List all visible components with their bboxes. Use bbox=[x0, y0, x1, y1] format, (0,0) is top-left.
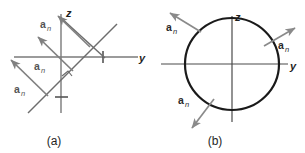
panel-a-label-an-middle-subscript: n bbox=[41, 66, 45, 75]
panel-b-label-an-lower-left-subscript: n bbox=[185, 100, 189, 109]
panel-b-label-an-upper-left-symbol: a bbox=[166, 21, 172, 33]
panel-b-label-an-upper-left-subscript: n bbox=[173, 27, 177, 36]
panel-a-construction-line bbox=[60, 17, 105, 58]
panel-b-y-axis-label: y bbox=[289, 60, 297, 72]
panel-a-z-axis-label: z bbox=[65, 7, 72, 19]
panel-a-caption: (a) bbox=[47, 134, 62, 148]
panel-a-y-axis-label: y bbox=[138, 52, 146, 64]
panel-a-label-an-middle-symbol: a bbox=[34, 60, 40, 72]
panel-b: z y a n a n a n (b) bbox=[161, 11, 297, 148]
panel-a-label-an-bottom-symbol: a bbox=[14, 83, 20, 95]
panel-b-label-an-lower-left: a n bbox=[178, 94, 189, 109]
figure-container: z y a n a n a n (a) bbox=[0, 0, 305, 153]
panel-b-vector-an-lower-left bbox=[192, 99, 214, 128]
panel-a-label-an-top-symbol: a bbox=[40, 18, 46, 30]
panel-b-label-an-upper-left: a n bbox=[166, 21, 177, 36]
panel-a-label-an-bottom: a n bbox=[14, 83, 25, 98]
panel-b-label-an-upper-right-symbol: a bbox=[278, 39, 284, 51]
panel-a-label-an-top: a n bbox=[40, 18, 51, 33]
panel-b-label-an-lower-left-symbol: a bbox=[178, 94, 184, 106]
panel-b-label-an-upper-right: a n bbox=[278, 39, 289, 54]
panel-a-vector-an-top bbox=[58, 16, 90, 47]
panel-a-label-an-bottom-subscript: n bbox=[21, 89, 25, 98]
panel-a: z y a n a n a n (a) bbox=[11, 7, 146, 148]
panel-b-caption: (b) bbox=[208, 134, 223, 148]
panel-a-label-an-top-subscript: n bbox=[47, 24, 51, 33]
panel-b-z-axis-label: z bbox=[234, 11, 241, 23]
panel-a-label-an-middle: a n bbox=[34, 60, 45, 75]
panel-b-label-an-upper-right-subscript: n bbox=[285, 45, 289, 54]
physics-figure-svg: z y a n a n a n (a) bbox=[0, 0, 305, 153]
